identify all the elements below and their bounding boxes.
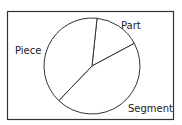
pie-slices (44, 18, 140, 114)
label-segment: Segment (128, 103, 173, 114)
pie-chart: Part Piece Segment (0, 0, 182, 125)
label-part: Part (121, 20, 141, 31)
label-piece: Piece (15, 45, 41, 56)
